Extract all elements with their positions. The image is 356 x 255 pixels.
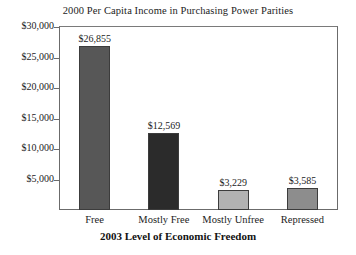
bar-group: $3,229 (218, 27, 249, 210)
y-axis: $5,000$10,000$15,000$20,000$25,000$30,00… (0, 26, 54, 210)
bar-value-label: $3,229 (204, 177, 263, 188)
bar[interactable] (79, 46, 110, 210)
y-tick-mark (54, 58, 59, 59)
x-tick-label: Mostly Free (129, 213, 198, 226)
y-tick-mark (54, 27, 59, 28)
x-axis-title: 2003 Level of Economic Freedom (0, 230, 356, 242)
y-tick-mark (54, 149, 59, 150)
bar[interactable] (148, 133, 179, 210)
y-tick-label: $30,000 (0, 21, 54, 31)
y-tick-label: $20,000 (0, 82, 54, 92)
bar[interactable] (287, 188, 318, 210)
y-tick-mark (54, 119, 59, 120)
x-tick-label: Mostly Unfree (199, 213, 268, 226)
bar-group: $12,569 (148, 27, 179, 210)
y-tick-label: $15,000 (0, 113, 54, 123)
bar-value-label: $26,855 (65, 33, 124, 44)
bar-value-label: $12,569 (134, 120, 193, 131)
x-tick-label: Free (60, 213, 129, 226)
x-tick-label: Repressed (268, 213, 337, 226)
chart-title: 2000 Per Capita Income in Purchasing Pow… (0, 5, 356, 16)
bar-group: $26,855 (79, 27, 110, 210)
y-tick-mark (54, 180, 59, 181)
y-tick-mark (54, 88, 59, 89)
x-axis: FreeMostly FreeMostly UnfreeRepressed (60, 213, 337, 229)
bar-group: $3,585 (287, 27, 318, 210)
bars-layer: $26,855$12,569$3,229$3,585 (60, 27, 337, 210)
y-tick-label: $10,000 (0, 143, 54, 153)
y-tick-label: $5,000 (0, 174, 54, 184)
bar-value-label: $3,585 (273, 175, 332, 186)
y-tick-label: $25,000 (0, 52, 54, 62)
bar[interactable] (218, 190, 249, 210)
bar-chart: 2000 Per Capita Income in Purchasing Pow… (0, 0, 356, 255)
